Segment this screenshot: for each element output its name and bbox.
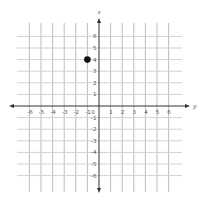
arrow-up-icon	[97, 18, 101, 23]
y-tick-label: 5	[93, 45, 97, 51]
x-tick-label: 2	[121, 109, 125, 115]
x-tick-label: -1	[85, 109, 90, 115]
x-tick-label: -3	[62, 109, 68, 115]
y-tick-label: 1	[93, 91, 97, 97]
data-point	[84, 56, 91, 63]
x-axis-label: y	[192, 102, 197, 110]
x-tick-label: -5	[39, 109, 45, 115]
y-tick-label: -3	[91, 138, 97, 144]
data-points	[84, 56, 91, 63]
arrow-down-icon	[97, 188, 101, 193]
x-tick-label: -2	[74, 109, 79, 115]
x-tick-label: -4	[50, 109, 56, 115]
x-tick-label: 3	[133, 109, 137, 115]
y-tick-label: 6	[93, 33, 97, 39]
y-tick-label: -4	[91, 149, 97, 155]
x-tick-label: 5	[156, 109, 160, 115]
y-tick-label: 3	[93, 68, 97, 74]
arrow-right-icon	[185, 104, 190, 108]
x-tick-label: 4	[144, 109, 148, 115]
y-tick-label: 2	[93, 80, 97, 86]
x-tick-label: -6	[27, 109, 33, 115]
arrow-left-icon	[9, 104, 14, 108]
x-tick-label: 1	[109, 109, 113, 115]
coordinate-plane: y x -6-5-4-3-2-10123456 654321-1-2-3-4-5…	[0, 0, 198, 202]
y-tick-label: -6	[91, 173, 97, 179]
y-tick-label: -2	[91, 126, 96, 132]
x-tick-label: 6	[167, 109, 171, 115]
y-axis-label: x	[98, 8, 102, 15]
y-tick-label: -5	[91, 161, 97, 167]
y-tick-label: 4	[93, 57, 97, 63]
y-tick-label: -1	[91, 115, 96, 121]
